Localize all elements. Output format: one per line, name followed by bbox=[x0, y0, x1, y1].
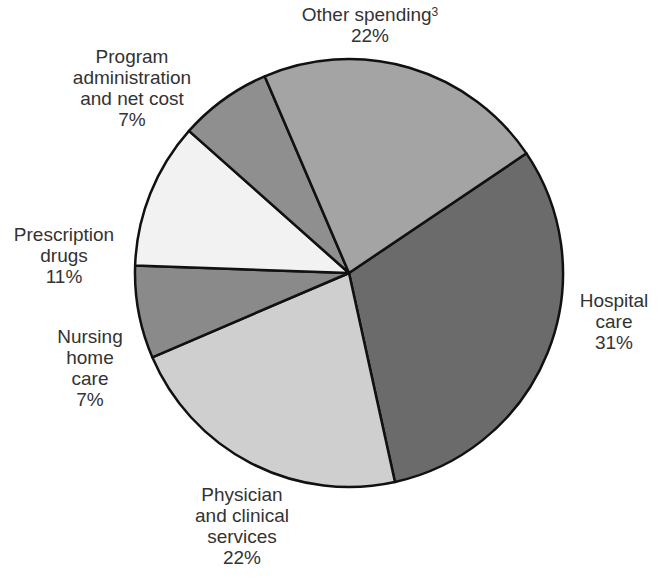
label-text: services bbox=[172, 526, 312, 547]
label-percent: 22% bbox=[290, 25, 450, 46]
label-percent: 22% bbox=[172, 547, 312, 568]
label-percent: 31% bbox=[568, 332, 660, 353]
footnote-marker: 3 bbox=[432, 5, 439, 19]
label-text: administration bbox=[62, 67, 202, 88]
label-physician-clinical: Physician and clinical services 22% bbox=[172, 484, 312, 568]
label-text: drugs bbox=[4, 245, 124, 266]
label-text: Nursing bbox=[44, 326, 136, 347]
label-nursing-home-care: Nursing home care 7% bbox=[44, 326, 136, 410]
label-text: Program bbox=[62, 46, 202, 67]
label-percent: 7% bbox=[62, 109, 202, 130]
label-text: care bbox=[568, 311, 660, 332]
label-text: and net cost bbox=[62, 88, 202, 109]
label-percent: 7% bbox=[44, 389, 136, 410]
label-text: Hospital bbox=[568, 290, 660, 311]
label-other-spending: Other spending3 22% bbox=[290, 4, 450, 46]
label-text: care bbox=[44, 368, 136, 389]
label-text: Other spending bbox=[302, 4, 432, 25]
label-program-administration: Program administration and net cost 7% bbox=[62, 46, 202, 130]
label-percent: 11% bbox=[4, 266, 124, 287]
label-text: Prescription bbox=[4, 224, 124, 245]
label-prescription-drugs: Prescription drugs 11% bbox=[4, 224, 124, 287]
label-text: home bbox=[44, 347, 136, 368]
label-hospital-care: Hospital care 31% bbox=[568, 290, 660, 353]
label-text: and clinical bbox=[172, 505, 312, 526]
label-text: Physician bbox=[172, 484, 312, 505]
